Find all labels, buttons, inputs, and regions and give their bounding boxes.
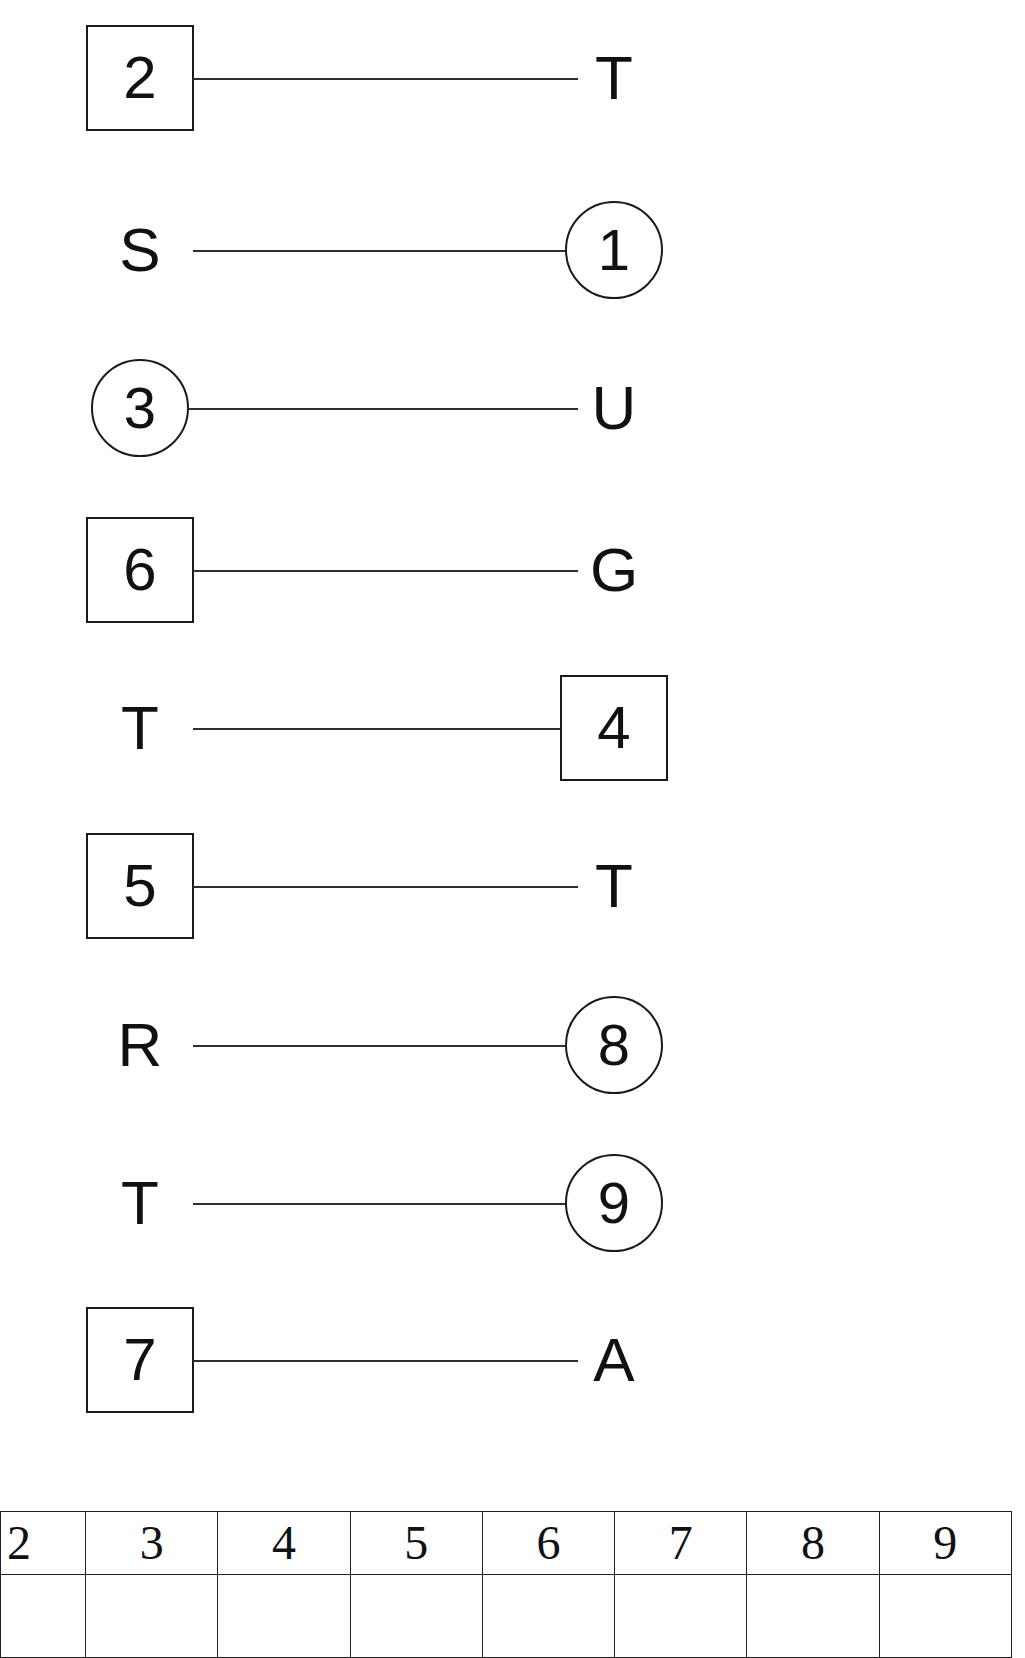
answer-table-answer-cell[interactable] [747, 1575, 879, 1658]
match-row-left-endpoint: 5 [84, 826, 196, 946]
number-box-7[interactable]: 7 [86, 1307, 194, 1413]
connector-line[interactable] [193, 1045, 573, 1047]
answer-table-answer-cell[interactable] [615, 1575, 747, 1658]
match-row-right-endpoint: U [558, 348, 670, 468]
answer-table-header-cell: 3 [86, 1512, 218, 1575]
answer-table-body: 23456789 [1, 1512, 1012, 1658]
match-row: 7A [0, 1300, 1025, 1420]
answer-table: 23456789 [0, 1511, 1012, 1658]
answer-table-header-cell: 4 [218, 1512, 350, 1575]
answer-table-header-cell: 5 [350, 1512, 482, 1575]
match-row: 3U [0, 348, 1025, 468]
answer-table-header-cell: 6 [482, 1512, 614, 1575]
match-row-left-endpoint: T [84, 1143, 196, 1263]
answer-table-header-row: 23456789 [1, 1512, 1012, 1575]
letter-label-left[interactable]: R [118, 1014, 163, 1076]
match-row: 6G [0, 510, 1025, 630]
answer-table-answer-cell[interactable] [218, 1575, 350, 1658]
answer-table-answer-cell[interactable] [350, 1575, 482, 1658]
letter-label-left[interactable]: T [121, 1172, 159, 1234]
letter-label-right[interactable]: G [590, 539, 638, 601]
connector-line[interactable] [193, 250, 573, 252]
match-row-left-endpoint: 6 [84, 510, 196, 630]
number-box-4[interactable]: 4 [560, 675, 668, 781]
answer-table-header-cell: 7 [615, 1512, 747, 1575]
match-row-right-endpoint: T [558, 826, 670, 946]
match-row-right-endpoint: T [558, 18, 670, 138]
connector-line[interactable] [188, 408, 578, 410]
answer-table-answer-cell[interactable] [1, 1575, 86, 1658]
answer-table-header-cell: 9 [879, 1512, 1011, 1575]
connector-line[interactable] [193, 570, 578, 572]
number-box-5[interactable]: 5 [86, 833, 194, 939]
number-circle-1[interactable]: 1 [565, 201, 663, 299]
match-row: R8 [0, 985, 1025, 1105]
number-box-2[interactable]: 2 [86, 25, 194, 131]
match-row-left-endpoint: 2 [84, 18, 196, 138]
connector-line[interactable] [193, 728, 580, 730]
letter-label-left[interactable]: T [121, 697, 159, 759]
letter-label-right[interactable]: A [593, 1329, 634, 1391]
letter-label-right[interactable]: U [592, 377, 637, 439]
letter-label-left[interactable]: S [119, 219, 160, 281]
letter-label-right[interactable]: T [595, 47, 633, 109]
connector-line[interactable] [193, 1360, 578, 1362]
answer-table-answer-cell[interactable] [86, 1575, 218, 1658]
match-row-right-endpoint: 9 [558, 1143, 670, 1263]
match-row-left-endpoint: R [84, 985, 196, 1105]
match-row-left-endpoint: T [84, 668, 196, 788]
match-row-right-endpoint: 4 [558, 668, 670, 788]
match-row-left-endpoint: S [84, 190, 196, 310]
match-row-left-endpoint: 3 [84, 348, 196, 468]
match-row-right-endpoint: 8 [558, 985, 670, 1105]
number-circle-3[interactable]: 3 [91, 359, 189, 457]
letter-label-right[interactable]: T [595, 855, 633, 917]
match-row-left-endpoint: 7 [84, 1300, 196, 1420]
match-row: T9 [0, 1143, 1025, 1263]
answer-table-header-cell: 2 [1, 1512, 86, 1575]
matching-diagram: 2TS13U6GT45TR8T97A [0, 0, 1025, 1460]
number-circle-9[interactable]: 9 [565, 1154, 663, 1252]
match-row: T4 [0, 668, 1025, 788]
connector-line[interactable] [193, 78, 578, 80]
answer-table-answer-row [1, 1575, 1012, 1658]
match-row: 5T [0, 826, 1025, 946]
number-box-6[interactable]: 6 [86, 517, 194, 623]
match-row: S1 [0, 190, 1025, 310]
answer-table-answer-cell[interactable] [879, 1575, 1011, 1658]
answer-table-answer-cell[interactable] [482, 1575, 614, 1658]
match-row-right-endpoint: 1 [558, 190, 670, 310]
match-row-right-endpoint: A [558, 1300, 670, 1420]
connector-line[interactable] [193, 886, 578, 888]
answer-table-header-cell: 8 [747, 1512, 879, 1575]
match-row: 2T [0, 18, 1025, 138]
match-row-right-endpoint: G [558, 510, 670, 630]
connector-line[interactable] [193, 1203, 573, 1205]
number-circle-8[interactable]: 8 [565, 996, 663, 1094]
